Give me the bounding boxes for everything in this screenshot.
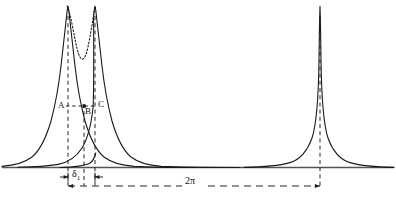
curve-peak-2-left-flank xyxy=(2,16,94,167)
delta-dimension-group xyxy=(60,173,103,182)
curve-left-tail xyxy=(2,16,67,166)
curve-peak-1 xyxy=(67,6,196,167)
component-curves-group xyxy=(2,6,394,167)
twopi-arrowhead-right xyxy=(315,184,320,188)
curve-peak-2 xyxy=(60,6,240,167)
delta-arrowhead-left xyxy=(64,175,68,179)
twopi-arrowhead-left xyxy=(68,184,73,188)
label-point-b: B xyxy=(85,107,91,116)
figure-container: A B C δ1 2π xyxy=(0,0,396,199)
delta-subscript: 1 xyxy=(77,174,81,182)
curve-peak-2-rise xyxy=(18,16,94,167)
label-point-c: C xyxy=(98,100,104,109)
label-delta-1: δ1 xyxy=(72,169,80,182)
curve-peak-3 xyxy=(244,6,394,167)
delta-arrowhead-right xyxy=(95,175,99,179)
label-point-a: A xyxy=(58,101,65,110)
vertical-guides-group xyxy=(68,16,320,186)
label-two-pi: 2π xyxy=(185,176,195,186)
